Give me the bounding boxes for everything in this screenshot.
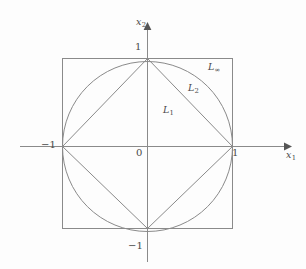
x-tick-minus-one: −1 — [41, 140, 56, 150]
l2-curve-label: L2 — [188, 83, 199, 93]
x-axis — [20, 143, 292, 151]
x-axis-label-subscript: 1 — [292, 154, 296, 162]
l2-curve-label-subscript: 2 — [195, 87, 199, 95]
x-tick-one: 1 — [232, 148, 238, 158]
l-infinity-curve-label-subscript: ∞ — [215, 66, 221, 74]
l1-curve-label-subscript: 1 — [170, 109, 174, 117]
origin-label: 0 — [136, 148, 142, 158]
x-axis-label: x1 — [286, 150, 296, 160]
y-tick-minus-one: −1 — [128, 241, 143, 251]
y-tick-one: 1 — [135, 42, 141, 52]
norm-unit-balls-figure: x2 x1 −1 1 0 1 −1 L1 L2 L∞ — [0, 0, 306, 269]
l-infinity-curve-label: L∞ — [208, 62, 220, 72]
y-axis-label-subscript: 2 — [142, 21, 146, 29]
y-axis-label: x2 — [136, 17, 146, 27]
figure-canvas — [0, 0, 306, 269]
l1-curve-label: L1 — [163, 105, 174, 115]
